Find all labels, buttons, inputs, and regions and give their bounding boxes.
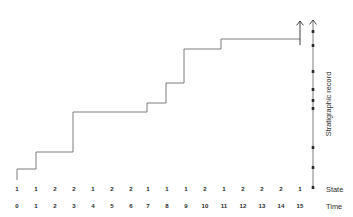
- step-curve-group: [17, 21, 303, 180]
- time-value: 2: [53, 202, 57, 209]
- state-value: 2: [241, 185, 245, 192]
- time-value: 3: [72, 202, 76, 209]
- state-value: 1: [298, 185, 302, 192]
- time-value: 5: [110, 202, 114, 209]
- time-value: 8: [165, 202, 169, 209]
- step-curve-arrow-icon: [297, 21, 304, 45]
- state-value: 1: [165, 185, 169, 192]
- state-row: 1 1 2 2 1 2 2 1 1 1 2 1 2 2 2 1 State: [15, 185, 343, 194]
- time-row: 0 1 2 3 4 5 6 7 8 9 10 11 12 13 14 15 Ti…: [15, 202, 342, 211]
- time-value: 7: [146, 202, 150, 209]
- stratigraphic-axis-group: Stratigraphic record: [310, 20, 333, 189]
- time-value: 15: [297, 202, 304, 209]
- time-value: 1: [34, 202, 38, 209]
- time-value: 13: [259, 202, 266, 209]
- time-value: 12: [240, 202, 247, 209]
- state-value: 1: [146, 185, 150, 192]
- state-value: 2: [110, 185, 114, 192]
- time-value: 6: [129, 202, 133, 209]
- chart-canvas: Stratigraphic record 1 1 2 2 1 2 2 1 1 1…: [0, 0, 353, 217]
- state-row-label: State: [326, 185, 343, 194]
- state-value: 2: [203, 185, 207, 192]
- time-row-label: Time: [326, 202, 342, 211]
- state-value: 2: [260, 185, 264, 192]
- time-value: 14: [278, 202, 285, 209]
- stratigraphic-record-figure: Stratigraphic record 1 1 2 2 1 2 2 1 1 1…: [0, 0, 353, 217]
- state-value: 1: [222, 185, 226, 192]
- state-value: 1: [91, 185, 95, 192]
- time-value: 4: [91, 202, 95, 209]
- state-value: 2: [279, 185, 283, 192]
- time-value: 9: [184, 202, 188, 209]
- state-value: 2: [129, 185, 133, 192]
- time-value: 0: [15, 202, 19, 209]
- state-value: 2: [72, 185, 76, 192]
- time-value: 11: [221, 202, 228, 209]
- stratigraphic-axis-title: Stratigraphic record: [324, 72, 333, 137]
- state-value: 1: [184, 185, 188, 192]
- step-curve: [17, 39, 300, 180]
- time-value: 10: [202, 202, 209, 209]
- state-value: 1: [15, 185, 19, 192]
- state-value: 2: [53, 185, 57, 192]
- state-value: 1: [34, 185, 38, 192]
